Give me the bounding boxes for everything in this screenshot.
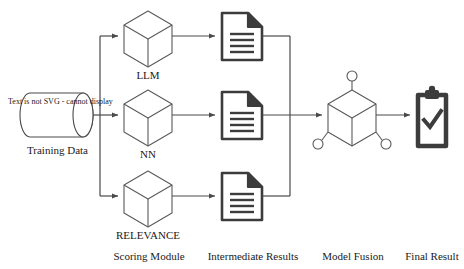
flow-diagram-svg [0, 0, 464, 269]
stage-label-final-result: Final Result [400, 251, 464, 262]
clipboard-check-icon [418, 86, 446, 146]
cylinder-inner-text: Text is not SVG - cannot display [8, 98, 104, 106]
label-cube-llm: LLM [118, 70, 178, 81]
cube-icon-relevance [124, 171, 172, 227]
stage-label-scoring-module: Scoring Module [105, 251, 193, 262]
cube-icon-llm [124, 11, 172, 67]
document-icon-3 [222, 173, 262, 220]
label-cube-nn: NN [118, 149, 178, 160]
stage-label-model-fusion: Model Fusion [314, 251, 392, 262]
label-cube-relevance: RELEVANCE [103, 230, 193, 241]
diagram-canvas: Text is not SVG - cannot display Trainin… [0, 0, 464, 269]
cube-icon-nn [124, 90, 172, 146]
cube-nodes-icon [313, 71, 391, 149]
merge-lines-to-fusion [262, 36, 322, 196]
document-icon-2 [222, 92, 262, 139]
label-training-data: Training Data [10, 145, 105, 156]
document-icon-1 [222, 13, 262, 60]
source-distribution-lines [93, 36, 118, 196]
stage-label-intermediate-results: Intermediate Results [197, 251, 309, 262]
